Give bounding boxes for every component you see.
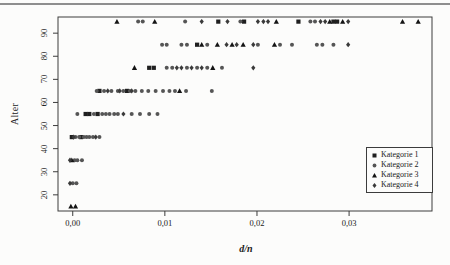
legend-item-kategorie-3: Kategorie 3 bbox=[370, 170, 429, 180]
data-point bbox=[73, 204, 78, 209]
x-tick-label: 0,01 bbox=[157, 218, 172, 228]
data-point bbox=[80, 158, 84, 162]
data-point bbox=[210, 65, 215, 70]
data-point bbox=[108, 112, 112, 116]
data-point bbox=[195, 43, 199, 47]
data-point bbox=[346, 42, 350, 47]
data-point bbox=[133, 89, 137, 93]
data-point bbox=[320, 43, 324, 47]
y-tick-label: 30 bbox=[39, 167, 49, 176]
data-point bbox=[116, 112, 120, 116]
legend-item-label: Kategorie 3 bbox=[381, 170, 419, 180]
data-point bbox=[416, 19, 421, 24]
data-point bbox=[167, 89, 171, 93]
data-point bbox=[121, 89, 125, 93]
data-point bbox=[266, 19, 270, 24]
data-point bbox=[373, 163, 377, 167]
data-point bbox=[205, 43, 209, 47]
y-tick-label: 40 bbox=[39, 144, 49, 153]
data-point bbox=[242, 20, 246, 24]
data-point bbox=[241, 42, 246, 47]
legend-item-kategorie-1: Kategorie 1 bbox=[370, 150, 429, 160]
data-point bbox=[179, 65, 183, 70]
data-point bbox=[87, 135, 91, 139]
data-point bbox=[183, 20, 187, 24]
data-point bbox=[200, 19, 204, 24]
data-point bbox=[95, 89, 99, 93]
data-point bbox=[373, 183, 377, 188]
legend-item-kategorie-2: Kategorie 2 bbox=[370, 160, 429, 170]
legend-marker-square-icon bbox=[370, 151, 379, 160]
data-point bbox=[97, 135, 101, 139]
data-point bbox=[335, 20, 339, 24]
legend-item-label: Kategorie 2 bbox=[381, 160, 419, 170]
data-point bbox=[112, 112, 116, 116]
data-point bbox=[251, 42, 255, 47]
legend-item-label: Kategorie 1 bbox=[381, 150, 419, 160]
series-kategorie-2 bbox=[71, 20, 336, 186]
data-point bbox=[331, 43, 335, 47]
data-point bbox=[308, 20, 312, 24]
data-point bbox=[96, 112, 100, 116]
data-point bbox=[278, 43, 282, 47]
data-point bbox=[296, 20, 300, 24]
data-point bbox=[400, 19, 405, 24]
data-point bbox=[165, 66, 169, 70]
data-point bbox=[224, 42, 228, 47]
data-point bbox=[146, 89, 150, 93]
y-tick-label: 20 bbox=[39, 191, 49, 200]
data-point bbox=[147, 112, 151, 116]
data-point bbox=[68, 181, 72, 186]
data-point bbox=[372, 172, 377, 177]
data-point bbox=[170, 66, 174, 70]
data-point bbox=[109, 89, 113, 93]
data-point bbox=[373, 153, 377, 157]
data-point bbox=[75, 158, 79, 162]
legend-marker-triangle-icon bbox=[370, 171, 379, 180]
data-point bbox=[106, 88, 110, 93]
data-point bbox=[102, 89, 106, 93]
data-point bbox=[313, 20, 317, 24]
data-point bbox=[179, 43, 183, 47]
y-tick-label: 60 bbox=[39, 98, 49, 107]
data-point bbox=[290, 43, 294, 47]
data-point bbox=[84, 112, 88, 116]
x-tick-label: 0,00 bbox=[65, 218, 80, 228]
data-point bbox=[104, 112, 108, 116]
legend-box: Kategorie 1 Kategorie 2 Kategorie 3 Kate… bbox=[366, 147, 433, 193]
data-point bbox=[165, 43, 169, 47]
data-point bbox=[261, 19, 265, 24]
data-point bbox=[256, 43, 260, 47]
legend-marker-diamond-icon bbox=[370, 181, 379, 190]
data-point bbox=[177, 88, 182, 93]
data-point bbox=[173, 89, 177, 93]
data-point bbox=[138, 112, 142, 116]
data-point bbox=[155, 112, 159, 116]
data-point bbox=[77, 135, 81, 139]
data-point bbox=[315, 43, 319, 47]
legend-item-label: Kategorie 4 bbox=[381, 180, 419, 190]
data-point bbox=[185, 66, 189, 70]
data-point bbox=[130, 112, 134, 116]
data-point bbox=[92, 112, 96, 116]
data-point bbox=[94, 134, 98, 139]
data-point bbox=[323, 19, 327, 24]
data-point bbox=[121, 111, 125, 116]
data-point bbox=[147, 66, 151, 70]
data-point bbox=[216, 20, 220, 24]
data-point bbox=[75, 112, 79, 116]
x-tick-label: 0,02 bbox=[250, 218, 265, 228]
data-point bbox=[210, 89, 214, 93]
data-point bbox=[205, 66, 209, 70]
y-tick-label: 50 bbox=[39, 121, 49, 130]
legend-marker-circle-icon bbox=[370, 161, 379, 170]
data-point bbox=[195, 66, 199, 70]
series-kategorie-1 bbox=[70, 20, 340, 140]
x-axis-label: d/n bbox=[239, 243, 252, 254]
data-point bbox=[220, 66, 224, 70]
data-point bbox=[251, 65, 255, 70]
data-point bbox=[272, 42, 277, 47]
x-tick-label: 0,03 bbox=[342, 218, 357, 228]
y-tick-label: 90 bbox=[39, 29, 49, 38]
data-point bbox=[152, 66, 156, 70]
